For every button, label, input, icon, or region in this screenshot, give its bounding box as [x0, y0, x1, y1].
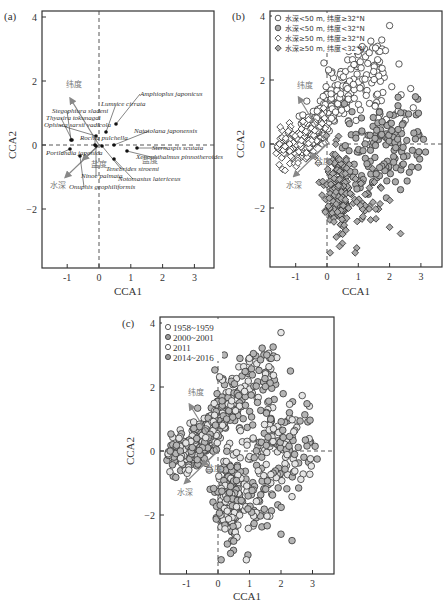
site-point: [284, 486, 291, 493]
site-point: [219, 488, 226, 495]
site-point: [183, 440, 190, 447]
panel-c-xlabel: CCA1: [233, 590, 261, 602]
site-point: [249, 487, 256, 494]
site-point: [392, 144, 398, 150]
site-point: [290, 428, 297, 435]
site-point: [367, 147, 373, 153]
site-point: [372, 103, 378, 109]
species-point: [78, 154, 82, 158]
site-point: [409, 147, 415, 153]
site-point: [278, 329, 285, 336]
site-point: [255, 467, 262, 474]
site-point: [359, 128, 365, 134]
site-point: [230, 538, 237, 545]
site-point: [242, 402, 249, 409]
site-point: [360, 148, 366, 154]
site-point: [332, 109, 338, 115]
site-point: [338, 107, 344, 113]
legend-marker: [165, 324, 170, 329]
species-label: Rochia pulchella: [79, 134, 128, 142]
y-tick-label: 2: [260, 75, 265, 86]
site-point: [240, 415, 247, 422]
site-point: [346, 121, 352, 127]
site-point: [223, 448, 230, 455]
panel-c-ylabel: CCA2: [124, 437, 136, 465]
site-point: [250, 435, 257, 442]
site-point: [278, 418, 285, 425]
site-point: [397, 230, 404, 237]
site-point: [263, 442, 270, 449]
site-point: [325, 67, 331, 73]
site-point: [284, 451, 291, 458]
site-point: [196, 447, 203, 454]
site-point: [357, 85, 363, 91]
site-point: [358, 115, 364, 121]
site-point: [314, 456, 321, 463]
site-point: [307, 455, 314, 462]
site-point: [249, 422, 256, 429]
y-tick-label: 4: [150, 318, 155, 329]
site-point: [167, 468, 174, 475]
env-label-salinity-alt: 盐度: [142, 155, 158, 165]
site-point: [250, 350, 257, 357]
x-tick-label: 2: [387, 271, 392, 282]
x-tick-label: 0: [216, 578, 221, 589]
site-point: [405, 111, 411, 117]
x-tick-label: 3: [310, 578, 315, 589]
site-point: [302, 411, 309, 418]
y-tick-label: 2: [32, 76, 37, 87]
site-point: [394, 136, 400, 142]
env-vector-label: 纬度: [188, 387, 204, 397]
site-point: [398, 110, 404, 116]
x-tick-label: 0: [325, 271, 330, 282]
site-point: [173, 442, 180, 449]
site-point: [176, 435, 183, 442]
site-point: [386, 224, 393, 231]
site-point: [327, 249, 334, 256]
site-point: [248, 392, 255, 399]
panel-c-label: (c): [122, 317, 135, 330]
site-point: [269, 492, 276, 499]
species-leader-line: [116, 94, 140, 124]
site-point: [320, 93, 326, 99]
x-tick-label: -1: [292, 271, 300, 282]
site-point: [389, 127, 395, 133]
site-point: [222, 526, 229, 533]
site-point: [300, 112, 306, 118]
site-point: [340, 74, 346, 80]
site-point: [262, 383, 269, 390]
site-point: [214, 439, 221, 446]
species-point: [94, 144, 98, 148]
site-point: [295, 485, 302, 492]
site-point: [264, 449, 271, 456]
x-tick-label: -1: [182, 578, 190, 589]
site-point: [400, 154, 406, 160]
site-point: [304, 400, 311, 407]
site-point: [301, 454, 308, 461]
site-point: [258, 454, 265, 461]
site-point: [242, 368, 249, 375]
x-tick-label: 2: [279, 578, 284, 589]
site-point: [363, 92, 369, 98]
x-tick-label: 0: [97, 272, 102, 283]
site-point: [415, 164, 421, 170]
site-point: [407, 85, 413, 91]
species-point: [70, 138, 74, 142]
site-point: [227, 550, 234, 557]
site-point: [406, 169, 412, 175]
site-point: [412, 136, 418, 142]
site-point: [400, 144, 406, 150]
site-point: [372, 135, 378, 141]
site-point: [168, 431, 175, 438]
species-point: [125, 149, 129, 153]
site-point: [224, 541, 231, 548]
panel-b-label: (b): [232, 10, 245, 23]
site-point: [365, 60, 371, 66]
site-point: [291, 451, 298, 458]
site-point: [417, 156, 423, 162]
site-point: [266, 398, 273, 405]
site-point: [254, 399, 261, 406]
site-point: [177, 448, 184, 455]
x-tick-label: -1: [63, 272, 71, 283]
env-vector-label: 纬度: [66, 79, 82, 89]
